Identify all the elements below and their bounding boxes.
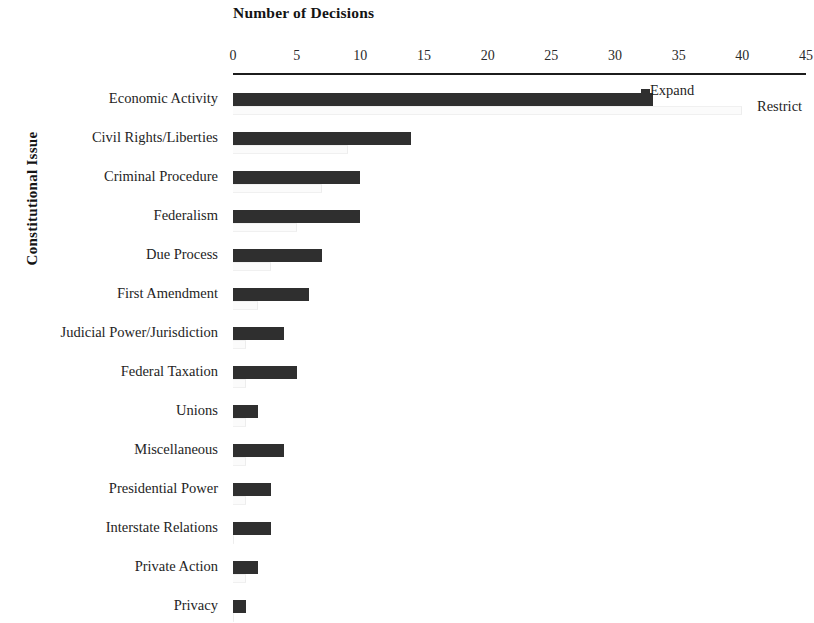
category-label: Miscellaneous <box>0 441 218 458</box>
legend-item-restrict[interactable]: Restrict <box>757 98 802 115</box>
category-label: Criminal Procedure <box>0 168 218 185</box>
bar-expand[interactable] <box>233 249 322 262</box>
bar-restrict[interactable] <box>233 457 246 466</box>
bar-group <box>233 316 806 355</box>
chart-title: Number of Decisions <box>233 4 374 22</box>
bar-expand[interactable] <box>233 444 284 457</box>
category-label: First Amendment <box>0 285 218 302</box>
x-axis-tick-labels: 051015202530354045 <box>233 48 806 70</box>
bar-restrict[interactable] <box>233 106 742 115</box>
bar-restrict[interactable] <box>233 418 246 427</box>
bar-expand[interactable] <box>233 93 653 106</box>
bar-group <box>233 82 806 121</box>
category-label: Federalism <box>0 207 218 224</box>
category-label: Due Process <box>0 246 218 263</box>
bar-expand[interactable] <box>233 561 258 574</box>
bar-group <box>233 511 806 550</box>
bar-expand[interactable] <box>233 405 258 418</box>
bar-group <box>233 277 806 316</box>
category-label: Economic Activity <box>0 90 218 107</box>
bar-group <box>233 472 806 511</box>
x-tick-label-15: 15 <box>417 48 431 64</box>
category-label: Private Action <box>0 558 218 575</box>
bar-restrict[interactable] <box>233 301 258 310</box>
bar-restrict[interactable] <box>233 184 322 193</box>
bar-restrict[interactable] <box>233 613 234 622</box>
bar-group <box>233 199 806 238</box>
category-label: Civil Rights/Liberties <box>0 129 218 146</box>
category-label: Privacy <box>0 597 218 614</box>
x-tick-label-45: 45 <box>799 48 813 64</box>
bar-group <box>233 238 806 277</box>
bar-restrict[interactable] <box>233 223 297 232</box>
plot-area <box>233 75 806 620</box>
x-tick-label-5: 5 <box>293 48 300 64</box>
bar-expand[interactable] <box>233 483 271 496</box>
bar-restrict[interactable] <box>233 535 234 544</box>
x-tick-label-35: 35 <box>672 48 686 64</box>
bar-restrict[interactable] <box>233 262 271 271</box>
bar-restrict[interactable] <box>233 574 246 583</box>
y-axis-category-labels: Economic ActivityCivil Rights/LibertiesC… <box>0 75 228 620</box>
bar-restrict[interactable] <box>233 145 348 154</box>
x-tick-label-25: 25 <box>544 48 558 64</box>
bar-restrict[interactable] <box>233 340 246 349</box>
bar-expand[interactable] <box>233 171 360 184</box>
legend-item-expand[interactable]: Expand <box>650 82 694 99</box>
bar-group <box>233 394 806 433</box>
bar-restrict[interactable] <box>233 496 246 505</box>
bar-expand[interactable] <box>233 366 297 379</box>
bar-group <box>233 355 806 394</box>
category-label: Presidential Power <box>0 480 218 497</box>
bar-expand[interactable] <box>233 132 411 145</box>
bar-group <box>233 121 806 160</box>
bar-group <box>233 550 806 589</box>
bar-group <box>233 433 806 472</box>
x-tick-label-40: 40 <box>735 48 749 64</box>
bar-group <box>233 589 806 623</box>
bar-group <box>233 160 806 199</box>
x-tick-label-30: 30 <box>608 48 622 64</box>
bar-expand[interactable] <box>233 210 360 223</box>
category-label: Judicial Power/Jurisdiction <box>0 324 218 341</box>
x-tick-label-20: 20 <box>481 48 495 64</box>
bar-expand[interactable] <box>233 288 309 301</box>
category-label: Federal Taxation <box>0 363 218 380</box>
category-label: Unions <box>0 402 218 419</box>
bar-expand[interactable] <box>233 327 284 340</box>
x-tick-label-10: 10 <box>353 48 367 64</box>
bar-expand[interactable] <box>233 522 271 535</box>
bar-restrict[interactable] <box>233 379 246 388</box>
bar-chart-figure: Number of Decisions Constitutional Issue… <box>0 0 814 623</box>
category-label: Interstate Relations <box>0 519 218 536</box>
x-tick-label-0: 0 <box>230 48 237 64</box>
bar-expand[interactable] <box>233 600 246 613</box>
